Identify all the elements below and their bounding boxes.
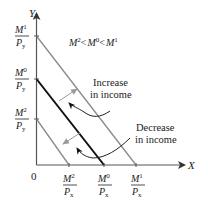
superscript: 2 bbox=[23, 106, 27, 114]
decrease-label-line1: Decrease bbox=[136, 122, 175, 133]
budget-line-diagram: Y X 0 M1 Py M0 Py M2 Py M2 Px M0 Px M1 P… bbox=[0, 0, 208, 208]
denominator: P bbox=[15, 120, 22, 131]
svg-text:Px: Px bbox=[63, 186, 74, 199]
y-intercept-label-m2: M2 Py bbox=[14, 106, 29, 133]
superscript: 0 bbox=[23, 66, 27, 74]
superscript: 1 bbox=[23, 23, 27, 31]
svg-text:M1: M1 bbox=[130, 172, 143, 184]
svg-text:M0: M0 bbox=[14, 66, 27, 78]
subscript: y bbox=[22, 42, 26, 50]
svg-text:M0: M0 bbox=[97, 172, 110, 184]
y-intercept-label-m1: M1 Py bbox=[14, 23, 29, 50]
income-ordering: M2<M0<M1 bbox=[68, 36, 118, 48]
denominator: P bbox=[131, 186, 138, 197]
y-intercept-label-m0: M0 Py bbox=[14, 66, 29, 93]
denominator: P bbox=[98, 186, 105, 197]
less-than-2: < bbox=[99, 37, 105, 48]
m1-sup: 1 bbox=[114, 36, 118, 44]
svg-text:M1: M1 bbox=[14, 23, 27, 35]
svg-text:Px: Px bbox=[131, 186, 142, 199]
denominator: P bbox=[15, 80, 22, 91]
svg-text:Py: Py bbox=[15, 120, 26, 133]
svg-text:Py: Py bbox=[15, 80, 26, 93]
increase-shift-arrow bbox=[59, 89, 77, 101]
budget-line-m2 bbox=[37, 119, 70, 165]
decrease-shift-arrow bbox=[63, 133, 80, 144]
svg-text:Px: Px bbox=[98, 186, 109, 199]
x-intercept-label-m1: M1 Px bbox=[130, 172, 145, 199]
x-axis-label: X bbox=[187, 159, 196, 171]
denominator: P bbox=[63, 186, 70, 197]
subscript: x bbox=[105, 191, 109, 199]
superscript: 1 bbox=[139, 172, 143, 180]
x-intercept-label-m2: M2 Px bbox=[62, 172, 77, 199]
subscript: y bbox=[22, 125, 26, 133]
increase-label-line1: Increase bbox=[93, 77, 128, 88]
y-axis-label: Y bbox=[29, 7, 37, 19]
svg-text:Py: Py bbox=[15, 37, 26, 50]
superscript: 0 bbox=[106, 172, 110, 180]
svg-text:M2: M2 bbox=[14, 106, 27, 118]
decrease-label-line2: in income bbox=[135, 134, 177, 145]
origin-label: 0 bbox=[31, 170, 37, 182]
x-intercept-label-m0: M0 Px bbox=[97, 172, 112, 199]
less-than-1: < bbox=[81, 37, 87, 48]
subscript: y bbox=[22, 85, 26, 93]
subscript: x bbox=[138, 191, 142, 199]
denominator: P bbox=[15, 37, 22, 48]
subscript: x bbox=[70, 191, 74, 199]
increase-label-line2: in income bbox=[90, 89, 132, 100]
superscript: 2 bbox=[71, 172, 75, 180]
svg-text:M2: M2 bbox=[62, 172, 75, 184]
